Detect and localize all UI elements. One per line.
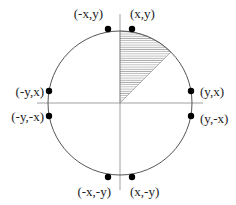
point-label: (-x,-y) xyxy=(77,184,111,199)
point-label: (-y,-x) xyxy=(11,109,44,124)
point-label: (x,-y) xyxy=(130,184,159,199)
point-dot xyxy=(188,113,194,119)
shaded-octant xyxy=(120,31,171,103)
point-dot xyxy=(105,26,111,32)
point-dot xyxy=(129,26,135,32)
point-dot xyxy=(188,88,194,94)
point-dot xyxy=(105,174,111,180)
point-dot xyxy=(46,88,52,94)
point-label: (x,y) xyxy=(130,6,155,21)
point-label: (y,x) xyxy=(200,84,224,99)
point-label: (y,-x) xyxy=(200,111,228,126)
point-dot xyxy=(46,113,52,119)
point-label: (-y,x) xyxy=(16,84,44,99)
point-label: (-x,y) xyxy=(74,6,103,21)
circle-symmetry-diagram: (x,y)(-x,y)(y,x)(-y,x)(y,-x)(-y,-x)(x,-y… xyxy=(0,0,236,205)
point-dot xyxy=(129,174,135,180)
